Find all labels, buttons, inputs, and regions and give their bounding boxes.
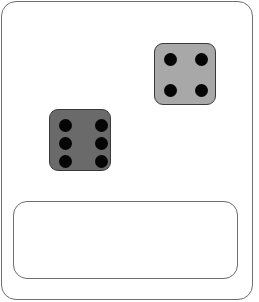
die-pip: [195, 84, 208, 97]
die-pip: [59, 137, 72, 150]
die-pip: [95, 137, 108, 150]
answer-input-box[interactable]: [13, 201, 238, 279]
die-pip: [95, 119, 108, 132]
die-six: [49, 109, 111, 171]
die-pip: [95, 155, 108, 168]
die-pip: [164, 84, 177, 97]
die-pip: [59, 155, 72, 168]
die-pip: [59, 119, 72, 132]
die-four: [154, 43, 216, 105]
die-pip: [164, 53, 177, 66]
die-pip: [195, 53, 208, 66]
